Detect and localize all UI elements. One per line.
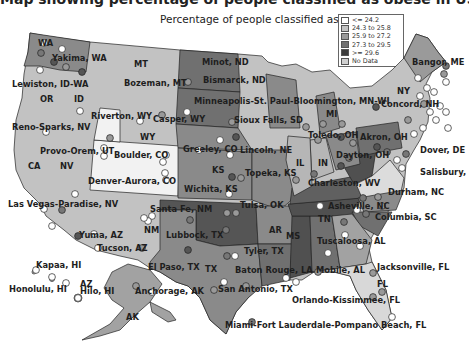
svg-text:Provo-Orem, UT: Provo-Orem, UT: [40, 146, 115, 156]
svg-text:Charleston, WV: Charleston, WV: [308, 178, 381, 188]
svg-text:El Paso, TX: El Paso, TX: [148, 262, 200, 272]
svg-text:Santa Fe, NM: Santa Fe, NM: [150, 204, 212, 214]
svg-text:Tyler, TX: Tyler, TX: [244, 246, 284, 256]
svg-text:OR: OR: [40, 94, 54, 104]
svg-text:Dover, DE: Dover, DE: [420, 145, 465, 155]
svg-text:Miami-Fort Lauderdale-Pompano: Miami-Fort Lauderdale-Pompano Beach, FL: [225, 320, 427, 330]
svg-text:Denver-Aurora, CO: Denver-Aurora, CO: [88, 176, 176, 186]
svg-text:NV: NV: [60, 161, 74, 171]
svg-text:Orlando-Kissimmee, FL: Orlando-Kissimmee, FL: [292, 295, 401, 305]
alaska-panhandle: [150, 302, 176, 322]
svg-text:Tucson, AZ: Tucson, AZ: [97, 243, 148, 253]
us-map: WA OR ID MT WY CA NV NM KS TX AR MS IL I…: [0, 0, 469, 350]
svg-text:AK: AK: [126, 312, 139, 322]
svg-text:Kapaa, HI: Kapaa, HI: [36, 260, 81, 270]
svg-text:Yuma, AZ: Yuma, AZ: [78, 230, 123, 240]
svg-text:Bismarck, ND: Bismarck, ND: [203, 75, 266, 85]
svg-text:Concord, NH: Concord, NH: [381, 99, 439, 109]
svg-text:Topeka, KS: Topeka, KS: [245, 168, 296, 178]
svg-text:NY: NY: [397, 86, 411, 96]
svg-text:Minot, ND: Minot, ND: [202, 57, 249, 67]
svg-text:Mobile, AL: Mobile, AL: [316, 265, 366, 275]
svg-text:Bangor, ME: Bangor, ME: [412, 57, 465, 67]
svg-text:ID: ID: [74, 94, 84, 104]
svg-text:San Antonio, TX: San Antonio, TX: [218, 284, 294, 294]
svg-text:KS: KS: [212, 165, 224, 175]
svg-text:Yakima, WA: Yakima, WA: [51, 53, 107, 63]
svg-text:Anchorage, AK: Anchorage, AK: [135, 286, 205, 296]
svg-text:Minneapolis-St. Paul-Bloomingt: Minneapolis-St. Paul-Bloomington, MN-WI: [194, 96, 390, 106]
svg-text:Casper, WY: Casper, WY: [153, 114, 206, 124]
svg-text:Asheville, NC: Asheville, NC: [328, 201, 390, 211]
svg-text:Salisbury, DE: Salisbury, DE: [420, 167, 469, 177]
svg-text:Reno-Sparks, NV: Reno-Sparks, NV: [12, 122, 91, 132]
svg-text:Riverton, WY: Riverton, WY: [91, 111, 153, 121]
svg-text:Wichita, KS: Wichita, KS: [184, 184, 238, 194]
svg-text:MS: MS: [286, 231, 300, 241]
svg-text:Bozeman, MT: Bozeman, MT: [124, 78, 187, 88]
svg-text:TX: TX: [205, 264, 218, 274]
svg-text:Jacksonville, FL: Jacksonville, FL: [376, 262, 450, 272]
svg-text:NM: NM: [144, 225, 159, 235]
svg-text:Columbia, SC: Columbia, SC: [375, 212, 437, 222]
svg-text:AR: AR: [269, 225, 282, 235]
svg-text:Sioux Falls, SD: Sioux Falls, SD: [234, 115, 303, 125]
svg-text:Baton Rouge, LA: Baton Rouge, LA: [235, 265, 313, 275]
svg-text:Honolulu, HI: Honolulu, HI: [9, 284, 67, 294]
svg-text:Lewiston, ID-WA: Lewiston, ID-WA: [12, 79, 89, 89]
svg-text:Akron, OH: Akron, OH: [360, 132, 408, 142]
svg-text:Hilo, HI: Hilo, HI: [80, 286, 114, 296]
svg-text:MI: MI: [326, 109, 337, 119]
svg-text:MT: MT: [134, 59, 148, 69]
svg-text:Greeley, CO: Greeley, CO: [183, 144, 238, 154]
svg-text:Lincoln, NE: Lincoln, NE: [240, 145, 292, 155]
svg-text:TN: TN: [318, 214, 331, 224]
svg-text:Durham, NC: Durham, NC: [388, 187, 444, 197]
svg-text:Toledo, OH: Toledo, OH: [308, 130, 358, 140]
svg-text:WA: WA: [38, 38, 54, 48]
svg-text:FL: FL: [377, 279, 389, 289]
svg-text:Tuscaloosa, AL: Tuscaloosa, AL: [317, 236, 386, 246]
svg-text:IN: IN: [318, 158, 328, 168]
svg-text:CA: CA: [28, 161, 41, 171]
svg-text:WY: WY: [140, 132, 156, 142]
svg-text:Boulder, CO: Boulder, CO: [114, 150, 168, 160]
svg-text:IL: IL: [296, 158, 305, 168]
svg-text:Dayton, OH: Dayton, OH: [336, 150, 389, 160]
svg-text:Tulsa, OK: Tulsa, OK: [240, 200, 284, 210]
svg-text:Las Vegas-Paradise, NV: Las Vegas-Paradise, NV: [8, 199, 119, 209]
svg-text:Lubbock, TX: Lubbock, TX: [166, 230, 224, 240]
